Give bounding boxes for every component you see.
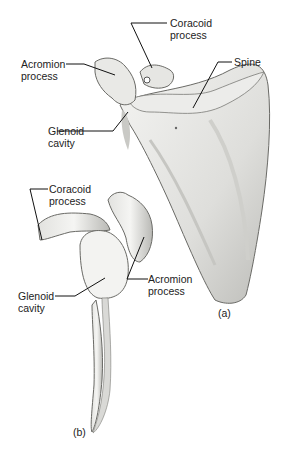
label-line: cavity xyxy=(48,137,84,149)
label-line: process xyxy=(170,29,212,41)
label-line: process xyxy=(49,195,91,207)
label-a-coracoid-process: Coracoid process xyxy=(170,17,212,41)
panel-b-tag: (b) xyxy=(73,426,86,438)
label-line: Glenoid xyxy=(48,125,84,137)
label-b-glenoid-cavity: Glenoid cavity xyxy=(18,290,54,314)
label-line: process xyxy=(21,70,65,82)
label-a-glenoid-cavity: Glenoid cavity xyxy=(48,125,84,149)
label-line: Coracoid xyxy=(170,17,212,29)
label-line: Acromion xyxy=(148,273,192,285)
label-a-acromion-process: Acromion process xyxy=(21,58,65,82)
label-b-acromion-process: Acromion process xyxy=(148,273,192,297)
label-b-coracoid-process: Coracoid process xyxy=(49,183,91,207)
label-line: Glenoid xyxy=(18,290,54,302)
scapula-lateral-view xyxy=(38,192,153,433)
panel-a-tag: (a) xyxy=(218,307,231,319)
label-line: process xyxy=(148,285,192,297)
label-line: cavity xyxy=(18,302,54,314)
label-line: Coracoid xyxy=(49,183,91,195)
label-a-spine: Spine xyxy=(234,56,261,68)
label-line: Acromion xyxy=(21,58,65,70)
label-line: Spine xyxy=(234,56,261,68)
